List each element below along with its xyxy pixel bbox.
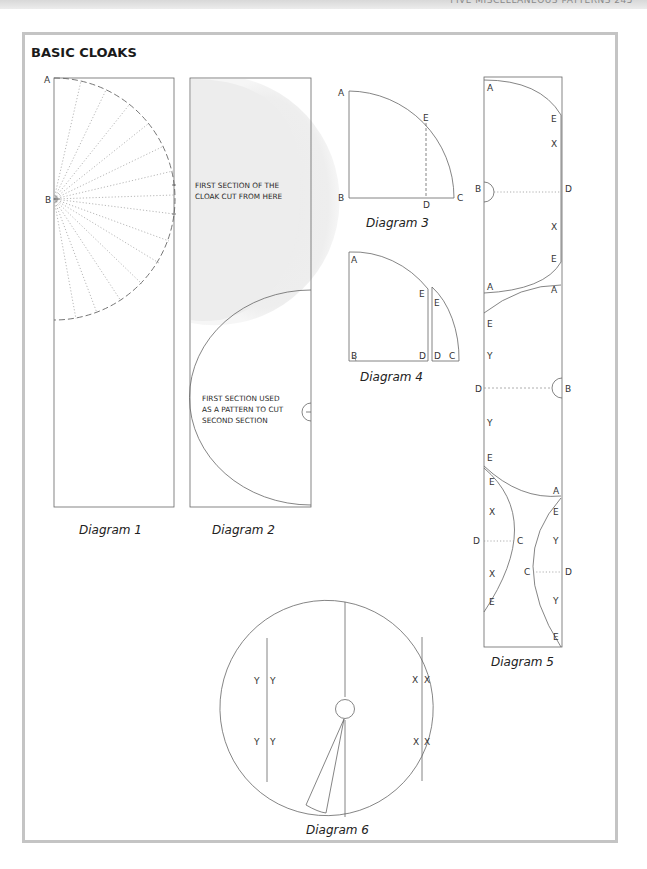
- fabric-rectangle: [54, 78, 174, 507]
- d6-label-x3: X: [413, 737, 419, 747]
- d6-label-x2: X: [424, 675, 430, 685]
- d5-mid-label-a1: A: [487, 282, 494, 292]
- d5-bot-label-d1: D: [473, 536, 480, 546]
- d4-label-c: C: [449, 351, 455, 361]
- bottom-left-gore: [484, 468, 515, 612]
- d5-top-label-e2: E: [551, 254, 557, 264]
- d5-mid-label-e1: E: [487, 319, 493, 329]
- d4-label-d2: D: [434, 351, 441, 361]
- opening-wedge: [306, 719, 344, 813]
- d5-top-label-x1: X: [551, 139, 557, 149]
- d5-bot-label-a: A: [553, 486, 560, 496]
- d4-label-a: A: [351, 255, 358, 265]
- d6-label-y4: Y: [269, 737, 276, 747]
- d2-note-top-line2: CLOAK CUT FROM HERE: [195, 192, 283, 201]
- diagram-3-caption: Diagram 3: [366, 216, 429, 230]
- d3-label-a: A: [338, 88, 345, 98]
- d3-label-b: B: [338, 193, 344, 203]
- d4-label-e2: E: [434, 298, 440, 308]
- neck-hole: [336, 700, 355, 719]
- radial-fold-lines: [54, 81, 174, 319]
- d2-note-bottom-line3: SECOND SECTION: [202, 416, 268, 425]
- d6-label-x4: X: [424, 737, 430, 747]
- d5-bot-label-e2: E: [489, 597, 495, 607]
- d6-label-x1: X: [412, 675, 418, 685]
- d5-top-label-a1: A: [487, 83, 494, 93]
- d6-label-y3: Y: [253, 737, 260, 747]
- d5-bot-label-x1: X: [489, 507, 495, 517]
- d5-bot-label-e1: E: [489, 477, 495, 487]
- top-piece-outline: [484, 80, 561, 293]
- d2-note-bottom-line2: AS A PATTERN TO CUT: [202, 405, 284, 414]
- d5-mid-label-y2: Y: [486, 418, 493, 428]
- d3-label-d: D: [423, 200, 430, 210]
- d2-note-top-line1: FIRST SECTION OF THE: [195, 181, 279, 190]
- d6-label-y2: Y: [269, 676, 276, 686]
- diagram-2-caption: Diagram 2: [212, 523, 275, 537]
- diagram-6-caption: Diagram 6: [306, 823, 369, 837]
- top-neck-notch: [484, 182, 494, 202]
- d6-label-y1: Y: [253, 676, 260, 686]
- middle-neck-notch: [552, 378, 562, 398]
- d3-label-e: E: [423, 113, 429, 123]
- d5-top-label-x2: X: [551, 222, 557, 232]
- bottom-divider-curve: [484, 466, 561, 496]
- d5-bot-label-x2: X: [489, 569, 495, 579]
- bottom-right-gore: [533, 498, 561, 647]
- diagram-5-caption: Diagram 5: [491, 655, 554, 669]
- diagram-4-caption: Diagram 4: [360, 370, 423, 384]
- diagram-6: [220, 600, 433, 817]
- d5-top-label-b: B: [475, 184, 481, 194]
- d5-bot-label-c1: C: [517, 536, 523, 546]
- d5-bot-label-e4: E: [553, 632, 559, 642]
- d1-label-a: A: [44, 75, 51, 85]
- d5-top-label-e1: E: [551, 114, 557, 124]
- d4-label-b: B: [351, 351, 357, 361]
- diagrams-canvas: A B Diagram 1 FIRST SECTION OF THE CLOAK…: [0, 0, 647, 869]
- diagram-1: [54, 78, 176, 507]
- d5-top-label-d: D: [565, 184, 572, 194]
- d5-mid-label-d: D: [475, 384, 482, 394]
- dashed-semicircle: [54, 78, 175, 320]
- d5-bot-label-d2: D: [565, 567, 572, 577]
- diagram-5: [484, 77, 562, 647]
- d5-bot-label-e3: E: [553, 507, 559, 517]
- d4-label-e1: E: [419, 289, 425, 299]
- d5-mid-label-y1: Y: [486, 351, 493, 361]
- diagram-2: [189, 78, 432, 507]
- fabric-strip: [484, 77, 562, 647]
- diagram-1-caption: Diagram 1: [79, 523, 142, 537]
- d5-bot-label-c2: C: [524, 567, 530, 577]
- d4-label-d1: D: [419, 351, 426, 361]
- middle-piece-top-curve: [484, 285, 561, 313]
- d5-mid-label-b: B: [565, 384, 571, 394]
- d2-note-bottom-line1: FIRST SECTION USED: [202, 394, 280, 403]
- d3-label-c: C: [457, 193, 463, 203]
- d1-label-b: B: [45, 195, 51, 205]
- d5-mid-label-e2: E: [487, 453, 493, 463]
- d5-mid-label-a2: A: [551, 285, 558, 295]
- d5-bot-label-y1: Y: [552, 536, 559, 546]
- d5-bot-label-y2: Y: [552, 596, 559, 606]
